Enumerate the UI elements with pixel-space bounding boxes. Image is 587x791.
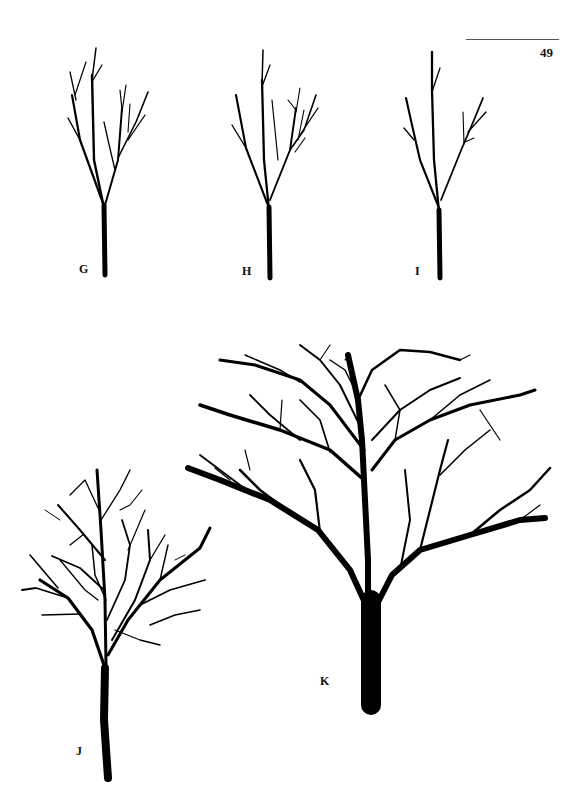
tree-illustration-k xyxy=(0,0,587,791)
figure-label-k: K xyxy=(320,674,329,689)
